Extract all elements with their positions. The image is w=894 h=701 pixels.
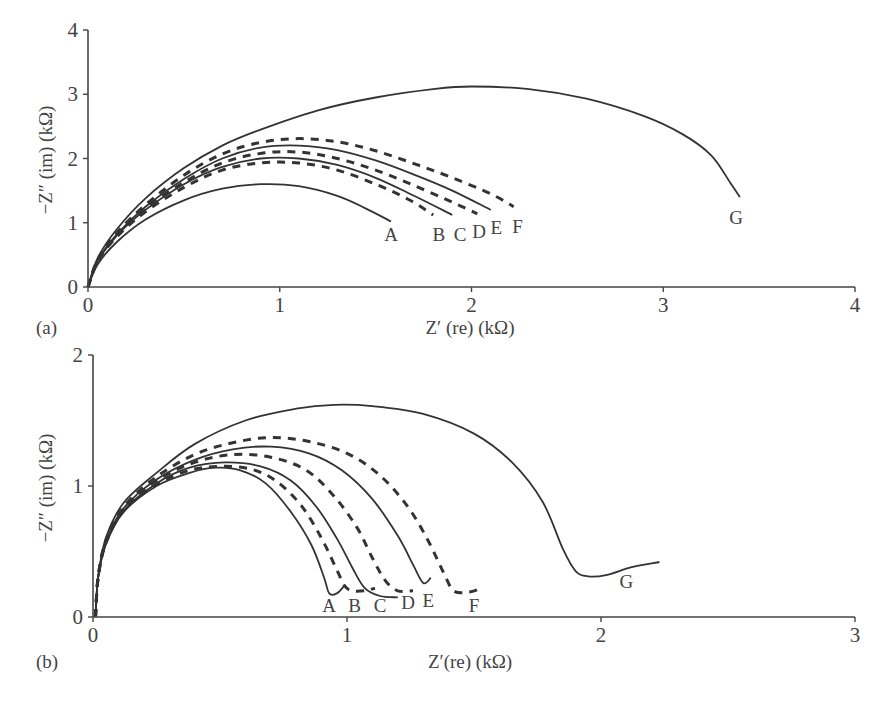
y-tick-label: 1	[68, 211, 79, 235]
panel-b-curve-label-e: E	[422, 590, 434, 611]
y-tick-label: 1	[73, 474, 84, 498]
panel-a-curve-label-a: A	[384, 224, 398, 245]
panel-b-curve-label-c: C	[374, 595, 387, 616]
panel-a-curve-label-e: E	[491, 217, 503, 238]
panel-a-curve-label-f: F	[512, 216, 523, 237]
panel-a-curve-labels: ABCDEFG	[384, 207, 743, 245]
panel-b-curve-label-g: G	[620, 571, 634, 592]
panel-a-curve-label-c: C	[454, 224, 467, 245]
panel-b-nyquist-plot: ABCDEFG 0123 012 Z′(re) (kΩ) −Z″ (im) (k…	[35, 343, 860, 673]
panel-a-curve-label-b: B	[433, 224, 446, 245]
panel-b-label: (b)	[36, 651, 58, 673]
panel-b-x-ticks: 0123	[88, 617, 861, 647]
y-tick-label: 3	[68, 82, 79, 106]
x-tick-label: 2	[466, 293, 477, 317]
panel-a-label: (a)	[36, 317, 57, 339]
panel-a-x-axis-title: Z′ (re) (kΩ)	[426, 317, 515, 339]
x-tick-label: 1	[342, 623, 353, 647]
x-tick-label: 3	[850, 623, 861, 647]
y-tick-label: 2	[68, 147, 79, 171]
panel-a-x-ticks: 01234	[83, 287, 861, 317]
panel-b-x-axis-title: Z′(re) (kΩ)	[428, 651, 512, 673]
y-tick-label: 0	[73, 605, 84, 629]
panel-b-curve-g	[96, 405, 660, 617]
panel-b-curves	[96, 405, 660, 617]
panel-a-curve-e	[88, 145, 491, 287]
panel-a-y-ticks: 01234	[68, 18, 89, 299]
panel-b-y-axis-title: −Z″ (im) (kΩ)	[35, 434, 57, 543]
panel-a-curve-label-g: G	[729, 207, 743, 228]
panel-b-curve-label-a: A	[322, 595, 336, 616]
panel-a-curve-g	[88, 87, 740, 288]
x-tick-label: 0	[83, 293, 94, 317]
panel-b-curve-labels: ABCDEFG	[322, 571, 633, 616]
impedance-figure: ABCDEFG 01234 01234 Z′ (re) (kΩ) −Z″ (im…	[0, 0, 894, 701]
panel-b-curve-a	[96, 468, 345, 617]
x-tick-label: 2	[596, 623, 607, 647]
panel-b-y-ticks: 012	[73, 343, 94, 629]
panel-a-y-axis-title: −Z″ (im) (kΩ)	[35, 106, 57, 215]
x-tick-label: 0	[88, 623, 99, 647]
panel-b-curve-e	[96, 446, 431, 617]
y-tick-label: 2	[73, 343, 84, 367]
y-tick-label: 4	[68, 18, 79, 42]
panel-a-nyquist-plot: ABCDEFG 01234 01234 Z′ (re) (kΩ) −Z″ (im…	[35, 18, 861, 339]
panel-b-curve-d	[96, 454, 414, 617]
panel-b-curve-label-d: D	[401, 592, 415, 613]
y-tick-label: 0	[68, 275, 79, 299]
x-tick-label: 1	[275, 293, 286, 317]
panel-a-curve-label-d: D	[472, 221, 486, 242]
panel-b-curve-label-b: B	[348, 595, 361, 616]
panel-a-curve-a	[88, 184, 391, 287]
panel-a-curves	[88, 87, 740, 288]
x-tick-label: 3	[658, 293, 669, 317]
x-tick-label: 4	[850, 293, 861, 317]
panel-b-curve-label-f: F	[469, 595, 480, 616]
